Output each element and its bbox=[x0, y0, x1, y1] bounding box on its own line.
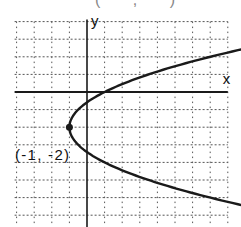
graph-area: ( , ) x y (-1, -2) bbox=[0, 0, 241, 227]
cropped-label-fragment: ( , ) bbox=[95, 0, 189, 9]
parabola-plot: x y (-1, -2) bbox=[0, 0, 241, 227]
y-axis-label: y bbox=[91, 12, 99, 29]
x-axis-label: x bbox=[223, 70, 231, 87]
vertex-point bbox=[66, 124, 73, 131]
vertex-label: (-1, -2) bbox=[15, 146, 69, 163]
axes bbox=[15, 20, 228, 227]
